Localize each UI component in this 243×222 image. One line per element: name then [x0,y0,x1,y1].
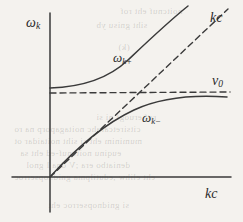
light-line-asymptote [50,9,228,177]
upper-branch-curve [50,6,188,88]
lower-branch-curve [50,96,227,177]
polariton-dispersion-figure: noitcnuf eht rof siht gnisu yb (k) rof e… [0,0,243,222]
x-axis-label: kc [205,186,217,202]
upper-branch-label: ωk+ [113,50,132,66]
resonance-label: ν0 [212,73,223,89]
light-line-label: kc [210,10,222,26]
y-axis-label: ωk [26,15,40,31]
lower-branch-label: ωk− [142,110,161,126]
resonance-asymptote [50,92,230,93]
